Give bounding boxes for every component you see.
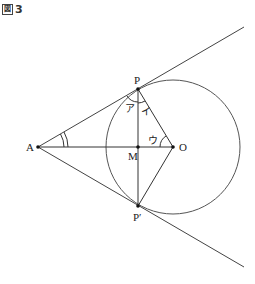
- label-p: P: [134, 74, 140, 86]
- angle-arc-a-outer: [64, 132, 68, 147]
- point-o: [171, 145, 175, 149]
- angle-arc-p-i: [138, 101, 145, 103]
- segment-op-prime: [138, 147, 173, 206]
- tangent-line-lower: [38, 147, 244, 267]
- angle-label-u: ウ: [148, 135, 158, 146]
- point-p-prime: [136, 204, 140, 208]
- point-p: [136, 87, 140, 91]
- tangent-line-upper: [38, 27, 244, 147]
- label-m: M: [128, 150, 138, 162]
- point-m: [136, 145, 140, 149]
- label-a: A: [26, 141, 34, 153]
- label-p-prime: P′: [133, 211, 142, 223]
- angle-label-a: ア: [125, 103, 135, 114]
- angle-label-i: イ: [141, 106, 151, 117]
- angle-arc-o-u: [160, 136, 166, 147]
- geometry-diagram: P P′ A M O ア イ ウ: [0, 0, 255, 284]
- point-a: [36, 145, 40, 149]
- label-o: O: [179, 141, 187, 153]
- angle-arc-a-inner: [61, 134, 65, 147]
